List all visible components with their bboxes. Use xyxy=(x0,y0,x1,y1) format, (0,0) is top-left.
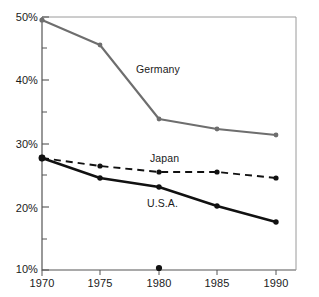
chart-plot-area xyxy=(0,0,319,297)
y-axis-major-ticks xyxy=(42,17,49,270)
x-tick-label-1980: 1980 xyxy=(140,277,178,289)
y-tick-label-40: 40% xyxy=(0,74,38,86)
series-label-germany: Germany xyxy=(136,63,180,75)
x-tick-label-1970: 1970 xyxy=(23,277,61,289)
x-tick-label-1975: 1975 xyxy=(81,277,119,289)
y-tick-label-30: 30% xyxy=(0,138,38,150)
series-label-usa: U.S.A. xyxy=(147,197,178,209)
axis-frame xyxy=(42,17,296,270)
stray-marker-1980 xyxy=(156,265,162,271)
y-tick-label-20: 20% xyxy=(0,202,38,214)
y-tick-label-50: 50% xyxy=(0,11,38,23)
series-line-germany xyxy=(39,17,278,137)
x-tick-label-1985: 1985 xyxy=(198,277,236,289)
series-line-usa xyxy=(39,155,279,225)
line-chart: 50% 40% 30% 20% 10% 1970 1975 1980 1985 … xyxy=(0,0,319,297)
y-tick-label-10: 10% xyxy=(0,263,38,275)
x-tick-label-1990: 1990 xyxy=(257,277,295,289)
series-label-japan: Japan xyxy=(150,152,179,164)
